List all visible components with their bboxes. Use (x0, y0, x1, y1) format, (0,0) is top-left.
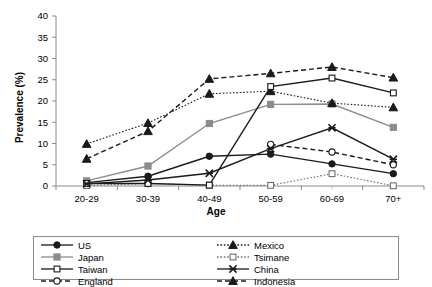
data-point (268, 84, 274, 90)
legend-label-china: China (254, 264, 279, 275)
series-japan (84, 101, 397, 184)
data-point (82, 140, 91, 148)
data-point (82, 155, 91, 163)
y-tick-label: 15 (37, 117, 48, 128)
legend-item-china: China (216, 263, 392, 275)
data-point (205, 75, 214, 83)
data-point (390, 124, 396, 130)
legend-label-mexico: Mexico (254, 240, 284, 251)
data-point (328, 124, 335, 131)
legend-label-indonesia: Indonesia (254, 276, 295, 287)
x-axis-title: Age (0, 206, 432, 217)
x-tick-label: 50-59 (259, 193, 283, 204)
legend-label-japan: Japan (78, 252, 104, 263)
y-tick-label: 5 (43, 159, 48, 170)
series-line (87, 67, 394, 159)
data-point (144, 127, 153, 135)
legend-item-taiwan: Taiwan (40, 263, 216, 275)
data-point (206, 153, 212, 159)
data-point (390, 162, 396, 168)
y-tick-label: 25 (37, 74, 48, 85)
data-point (390, 170, 396, 176)
legend-key-tsimane (216, 251, 250, 263)
chart-figure: Prevalence (%) 051015202530354020-2930-3… (0, 0, 432, 230)
data-point (206, 120, 212, 126)
legend-key-china (216, 263, 250, 275)
series-line (87, 104, 394, 181)
y-tick-label: 0 (43, 180, 48, 191)
legend-label-england: England (78, 276, 113, 287)
data-point (145, 163, 151, 169)
x-tick-label: 60-69 (320, 193, 344, 204)
data-point (205, 89, 214, 97)
y-tick-label: 40 (37, 10, 48, 21)
data-point (329, 161, 335, 167)
series-line (87, 154, 394, 182)
y-tick-label: 10 (37, 138, 48, 149)
legend-item-indonesia: Indonesia (216, 275, 392, 287)
x-tick-label: 40-49 (197, 193, 221, 204)
plot-canvas: 051015202530354020-2930-3940-4950-5960-6… (0, 0, 432, 230)
y-tick-label: 20 (37, 95, 48, 106)
legend-key-england (40, 275, 74, 287)
x-tick-label: 70+ (385, 193, 402, 204)
legend-item-us: US (40, 239, 216, 251)
legend-key-taiwan (40, 263, 74, 275)
data-point (390, 90, 396, 96)
data-point (390, 183, 396, 189)
data-point (206, 170, 213, 177)
data-point (144, 119, 153, 127)
legend-label-us: US (78, 240, 91, 251)
data-point (328, 63, 337, 71)
chart-legend: USMexicoJapanTsimaneTaiwanChinaEnglandIn… (33, 236, 399, 280)
legend-key-indonesia (216, 275, 250, 287)
legend-key-us (40, 239, 74, 251)
x-tick-label: 30-39 (136, 193, 160, 204)
data-point (329, 75, 335, 81)
data-point (389, 103, 398, 111)
legend-key-japan (40, 251, 74, 263)
legend-label-taiwan: Taiwan (78, 264, 108, 275)
legend-item-tsimane: Tsimane (216, 251, 392, 263)
legend-key-mexico (216, 239, 250, 251)
legend-label-tsimane: Tsimane (254, 252, 289, 263)
series-indonesia (82, 63, 397, 163)
data-point (268, 182, 274, 188)
data-point (329, 171, 335, 177)
series-mexico (82, 87, 397, 147)
data-point (329, 149, 335, 155)
y-tick-label: 35 (37, 32, 48, 43)
legend-item-japan: Japan (40, 251, 216, 263)
data-point (206, 182, 212, 188)
data-point (268, 101, 274, 107)
legend-item-england: England (40, 275, 216, 287)
x-tick-label: 20-29 (75, 193, 99, 204)
legend-item-mexico: Mexico (216, 239, 392, 251)
y-tick-label: 30 (37, 53, 48, 64)
